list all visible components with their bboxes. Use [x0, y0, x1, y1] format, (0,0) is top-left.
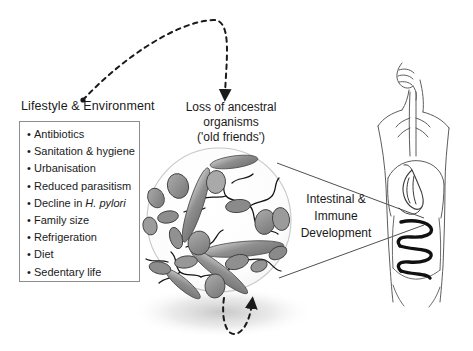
outcome-line3: Development — [288, 225, 384, 242]
list-item: •Refrigeration — [27, 229, 147, 246]
bullet-icon: • — [27, 212, 34, 229]
bullet-icon: • — [27, 126, 34, 143]
list-item: •Sedentary life — [27, 264, 147, 281]
list-item-label: Decline in — [34, 197, 85, 209]
bullet-icon: • — [27, 229, 34, 246]
figure-canvas: Lifestyle & Environment •Antibiotics •Sa… — [0, 0, 473, 351]
list-item: •Family size — [27, 212, 147, 229]
loss-heading-line2: ('old friends') — [161, 130, 301, 145]
list-item-label: Urbanisation — [34, 162, 96, 174]
list-item: •Antibiotics — [27, 126, 147, 143]
list-item: •Urbanisation — [27, 160, 147, 177]
bullet-icon: • — [27, 246, 34, 263]
loss-heading: Loss of ancestral organisms ('old friend… — [161, 100, 301, 145]
bullet-icon: • — [27, 160, 34, 177]
dashed-arrow-bottom — [223, 298, 252, 334]
bullet-icon: • — [27, 264, 34, 281]
list-item-label: Diet — [34, 248, 54, 260]
list-item: •Decline in H. pylori — [27, 195, 147, 212]
bullet-icon: • — [27, 195, 34, 212]
list-item-label: Sedentary life — [34, 266, 101, 278]
list-item: •Sanitation & hygiene — [27, 143, 147, 160]
list-item-label: Family size — [34, 214, 89, 226]
outcome-line1: Intestinal & — [288, 191, 384, 208]
lifestyle-heading: Lifestyle & Environment — [21, 99, 155, 113]
bullet-icon: • — [27, 143, 34, 160]
list-item-species: H. pylori — [85, 197, 125, 209]
outcome-label: Intestinal & Immune Development — [288, 191, 384, 242]
loss-heading-line1: Loss of ancestral organisms — [186, 100, 277, 129]
list-item: •Reduced parasitism — [27, 178, 147, 195]
outcome-line2: Immune — [288, 208, 384, 225]
lifestyle-item-list: •Antibiotics •Sanitation & hygiene •Urba… — [27, 126, 147, 281]
list-item-label: Refrigeration — [34, 231, 97, 243]
list-item-label: Antibiotics — [34, 128, 84, 140]
list-item-label: Reduced parasitism — [34, 180, 131, 192]
dashed-arc-top — [83, 20, 227, 100]
bullet-icon: • — [27, 178, 34, 195]
list-item: •Diet — [27, 246, 147, 263]
list-item-label: Sanitation & hygiene — [34, 145, 135, 157]
